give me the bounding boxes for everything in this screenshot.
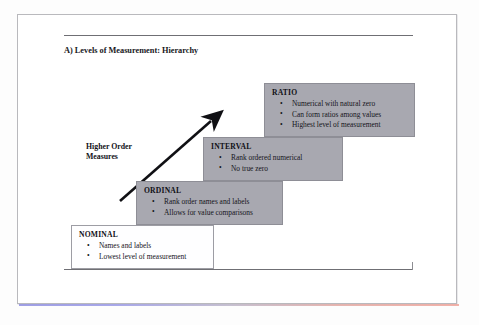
level-bullets-ratio: Numerical with natural zero Can form rat… (272, 99, 409, 131)
level-title-nominal: NOMINAL (79, 230, 208, 240)
arrow-label-line1: Higher Order (86, 142, 150, 152)
list-item: No true zero (211, 164, 337, 175)
bottom-horizontal-rule (64, 269, 413, 270)
level-title-ordinal: ORDINAL (144, 186, 277, 196)
list-item: Highest level of measurement (272, 120, 409, 131)
level-bullets-nominal: Names and labels Lowest level of measure… (79, 241, 208, 262)
list-item: Allows for value comparisons (144, 208, 277, 219)
arrow-label-line2: Measures (86, 152, 150, 162)
level-box-nominal: NOMINAL Names and labels Lowest level of… (71, 225, 214, 269)
slide-frame: A) Levels of Measurement: Hierarchy High… (17, 14, 457, 304)
level-box-ratio: RATIO Numerical with natural zero Can fo… (264, 83, 415, 137)
level-bullets-ordinal: Rank order names and labels Allows for v… (144, 197, 277, 218)
level-bullets-interval: Rank ordered numerical No true zero (211, 153, 337, 174)
arrow-label: Higher Order Measures (86, 142, 150, 162)
level-box-interval: INTERVAL Rank ordered numerical No true … (203, 137, 343, 181)
level-title-ratio: RATIO (272, 88, 409, 98)
level-box-ordinal: ORDINAL Rank order names and labels Allo… (136, 181, 283, 225)
list-item: Numerical with natural zero (272, 99, 409, 110)
level-title-interval: INTERVAL (211, 142, 337, 152)
page-title: A) Levels of Measurement: Hierarchy (64, 46, 198, 55)
bottom-rule-end-tick (412, 262, 413, 270)
list-item: Can form ratios among values (272, 110, 409, 121)
list-item: Rank ordered numerical (211, 153, 337, 164)
top-horizontal-rule (64, 35, 413, 36)
list-item: Lowest level of measurement (79, 252, 208, 263)
section-title-text: A) Levels of Measurement: Hierarchy (64, 46, 198, 55)
list-item: Rank order names and labels (144, 197, 277, 208)
list-item: Names and labels (79, 241, 208, 252)
scan-color-fringe (19, 304, 459, 306)
